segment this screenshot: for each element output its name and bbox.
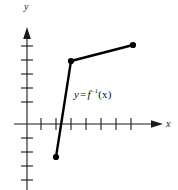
curve-endpoint-upper [130,42,136,48]
x-axis-group [14,118,163,130]
x-axis-label: x [166,119,170,129]
y-axis-arrowhead [23,27,31,39]
curve-endpoint-lower [53,154,59,160]
y-axis-group [21,27,33,190]
inverse-function-graph-figure: y x y=f–1(x) [0,0,178,190]
inverse-function-curve [53,42,136,160]
x-axis-arrowhead [151,120,163,128]
curve-equation-label: y=f–1(x) [74,89,112,100]
y-axis-label: y [24,2,28,12]
equation-argument: (x) [98,88,111,100]
curve-vertex-point [68,58,74,64]
curve-polyline [56,45,133,157]
equation-operator: = [79,88,87,100]
